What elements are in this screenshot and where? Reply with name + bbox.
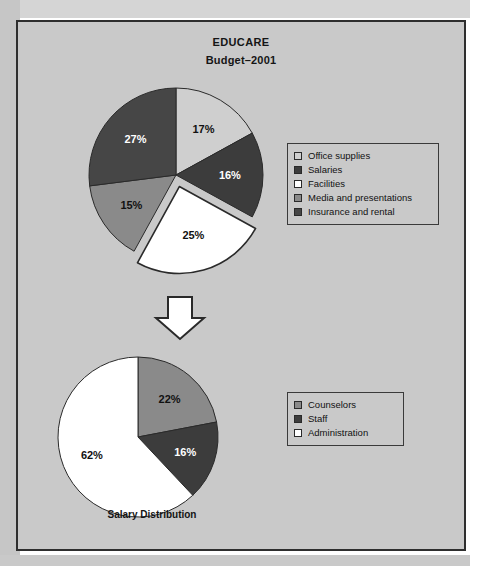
salary-legend: Counselors Staff Administration bbox=[287, 392, 404, 446]
legend-swatch-counselors bbox=[294, 401, 302, 409]
legend-item[interactable]: Counselors bbox=[294, 398, 395, 412]
pie-slice-label: 16% bbox=[174, 446, 196, 458]
pie-slice-label: 15% bbox=[120, 199, 142, 211]
legend-swatch-facilities bbox=[294, 180, 302, 188]
budget-legend: Office supplies Salaries Facilities Medi… bbox=[287, 143, 439, 225]
legend-label: Staff bbox=[308, 413, 327, 425]
legend-item[interactable]: Salaries bbox=[294, 163, 430, 177]
page-canvas: EDUCARE Budget–2001 17%16%25%15%27% 22%1… bbox=[0, 0, 484, 566]
figure-title: EDUCARE bbox=[18, 36, 464, 48]
legend-swatch-administration bbox=[294, 429, 302, 437]
legend-label: Insurance and rental bbox=[308, 206, 395, 218]
legend-label: Facilities bbox=[308, 178, 345, 190]
budget-pie-svg: 17%16%25%15%27% bbox=[58, 60, 298, 290]
legend-label: Salaries bbox=[308, 164, 342, 176]
legend-item[interactable]: Administration bbox=[294, 426, 395, 440]
salary-pie-slices bbox=[58, 357, 218, 517]
pie-slice-label: 62% bbox=[81, 449, 103, 461]
pie-slice-label: 25% bbox=[182, 229, 204, 241]
legend-swatch-media-and-presentations bbox=[294, 194, 302, 202]
pie-slice-label: 17% bbox=[192, 123, 214, 135]
figure-frame: EDUCARE Budget–2001 17%16%25%15%27% 22%1… bbox=[16, 20, 466, 551]
paper-margin-bottom bbox=[0, 555, 470, 566]
legend-label: Media and presentations bbox=[308, 192, 412, 204]
legend-item[interactable]: Media and presentations bbox=[294, 191, 430, 205]
legend-swatch-salaries bbox=[294, 166, 302, 174]
pie-slice-label: 22% bbox=[159, 393, 181, 405]
budget-pie-chart: 17%16%25%15%27% bbox=[58, 60, 298, 290]
down-arrow-icon bbox=[150, 294, 210, 342]
pie-slice-label: 27% bbox=[124, 133, 146, 145]
legend-item[interactable]: Office supplies bbox=[294, 149, 430, 163]
legend-label: Administration bbox=[308, 427, 368, 439]
legend-label: Office supplies bbox=[308, 150, 370, 162]
legend-item[interactable]: Facilities bbox=[294, 177, 430, 191]
legend-swatch-insurance-and-rental bbox=[294, 208, 302, 216]
salary-pie-chart: 22%16%62% bbox=[38, 340, 288, 530]
paper-margin-top bbox=[0, 0, 470, 18]
pie-slice-label: 16% bbox=[219, 169, 241, 181]
legend-label: Counselors bbox=[308, 399, 356, 411]
legend-item[interactable]: Insurance and rental bbox=[294, 205, 430, 219]
legend-item[interactable]: Staff bbox=[294, 412, 395, 426]
salary-pie-svg: 22%16%62% bbox=[38, 340, 288, 530]
legend-swatch-staff bbox=[294, 415, 302, 423]
salary-chart-caption: Salary Distribution bbox=[32, 509, 272, 520]
legend-swatch-office-supplies bbox=[294, 152, 302, 160]
